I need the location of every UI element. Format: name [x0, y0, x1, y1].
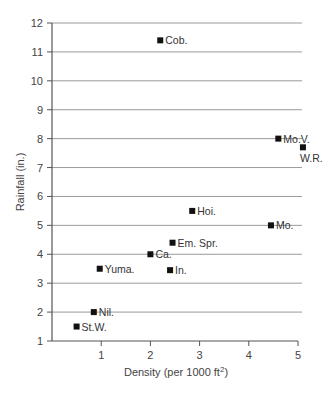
data-point: W.R. — [300, 144, 323, 164]
y-tick-label: 10 — [31, 75, 43, 87]
square-marker-icon — [74, 324, 80, 330]
data-point: Mo.V. — [275, 133, 309, 145]
x-tick-label: 5 — [295, 349, 301, 361]
y-tick-label: 8 — [37, 133, 43, 145]
x-tick-label: 4 — [246, 349, 252, 361]
square-marker-icon — [97, 266, 103, 272]
y-axis-title: Rainfall (in.) — [14, 153, 26, 212]
point-label: Mo.V. — [283, 133, 309, 145]
x-tick-label: 1 — [98, 349, 104, 361]
square-marker-icon — [147, 251, 153, 257]
square-marker-icon — [300, 144, 306, 150]
square-marker-icon — [170, 240, 176, 246]
y-tick-label: 6 — [37, 190, 43, 202]
axes: 12345678910111212345 — [31, 17, 301, 361]
x-axis-title: Density (per 1000 ft2) — [124, 365, 228, 378]
y-tick-label: 12 — [31, 17, 43, 29]
point-label: Ca. — [155, 248, 171, 260]
y-tick-label: 9 — [37, 104, 43, 116]
data-point: Yuma. — [97, 263, 135, 275]
y-tick-label: 1 — [37, 335, 43, 347]
y-tick-label: 5 — [37, 219, 43, 231]
y-tick-label: 11 — [32, 46, 43, 58]
point-label: Yuma. — [105, 263, 135, 275]
square-marker-icon — [157, 37, 163, 43]
data-point: Hoi. — [189, 205, 216, 217]
point-label: Hoi. — [197, 205, 216, 217]
x-tick-label: 2 — [147, 349, 153, 361]
data-points: Cob.Mo.V.W.R.Hoi.Mo.Em. Spr.Ca.In.Yuma.N… — [74, 34, 323, 332]
square-marker-icon — [167, 267, 173, 273]
square-marker-icon — [189, 208, 195, 214]
point-label: Mo. — [276, 219, 294, 231]
data-point: St.W. — [74, 321, 107, 333]
y-tick-label: 7 — [37, 162, 43, 174]
scatter-chart: 12345678910111212345 Cob.Mo.V.W.R.Hoi.Mo… — [0, 0, 336, 395]
y-tick-label: 4 — [37, 248, 43, 260]
point-label: Cob. — [165, 34, 187, 46]
data-point: Ca. — [147, 248, 171, 260]
data-point: Em. Spr. — [170, 237, 218, 249]
square-marker-icon — [91, 309, 97, 315]
x-tick-label: 3 — [197, 349, 203, 361]
point-label: In. — [175, 264, 187, 276]
data-point: Mo. — [268, 219, 294, 231]
point-label: St.W. — [82, 321, 107, 333]
square-marker-icon — [275, 136, 281, 142]
point-label: W.R. — [300, 152, 323, 164]
data-point: Nil. — [91, 306, 114, 318]
point-label: Nil. — [99, 306, 114, 318]
data-point: In. — [167, 264, 187, 276]
y-tick-label: 3 — [37, 277, 43, 289]
data-point: Cob. — [157, 34, 187, 46]
point-label: Em. Spr. — [178, 237, 218, 249]
square-marker-icon — [268, 222, 274, 228]
y-tick-label: 2 — [37, 306, 43, 318]
